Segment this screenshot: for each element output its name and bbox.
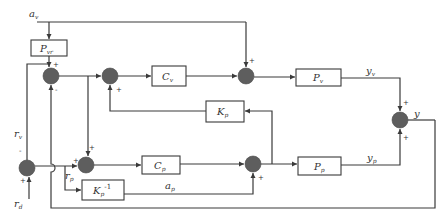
summing-junction-5	[78, 157, 94, 173]
sign: -	[19, 147, 22, 155]
label-a-p: ap	[165, 180, 175, 193]
sign: +	[403, 99, 409, 107]
block-diagram: av Pvr + - + Cv + Pv yv + + y Kp rv - + …	[0, 0, 441, 221]
summing-junction-2	[102, 68, 118, 84]
sign: +	[403, 134, 409, 142]
sign: -	[55, 86, 58, 94]
summing-junction-left	[19, 160, 35, 176]
sign: +	[249, 57, 255, 65]
label-r-v: rv	[14, 128, 23, 140]
sign: +	[116, 86, 122, 94]
label-y: y	[413, 108, 420, 119]
sign: +	[20, 177, 26, 185]
label-y-v: yv	[365, 65, 376, 77]
sign: +	[258, 174, 264, 182]
label-r-d: rd	[14, 198, 23, 210]
summing-junction-3	[238, 68, 254, 84]
summing-junction-1	[43, 68, 59, 84]
sign: +	[89, 144, 95, 152]
label-a-v: av	[29, 8, 39, 20]
summing-junction-6	[245, 156, 261, 172]
sign: +	[53, 61, 59, 69]
summing-junction-4	[392, 112, 408, 128]
sign: +	[73, 157, 79, 165]
label-r-p: rp	[65, 170, 74, 183]
label-y-p: yp	[366, 152, 377, 165]
signal-a-v-path	[37, 22, 246, 67]
